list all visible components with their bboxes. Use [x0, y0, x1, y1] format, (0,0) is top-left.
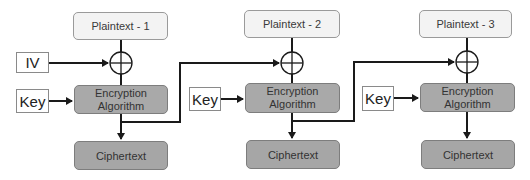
plaintext-2-box: Plaintext - 2 [244, 10, 340, 38]
encryption-algorithm-2-box: Encryption Algorithm [245, 83, 340, 113]
key-3-box: Key [362, 86, 394, 111]
ciphertext-3-box: Ciphertext [421, 140, 515, 169]
ciphertext-1-box: Ciphertext [74, 141, 168, 170]
plaintext-1-box: Plaintext - 1 [73, 12, 168, 40]
xor-icon-3 [456, 51, 478, 73]
key-1-box: Key [16, 89, 49, 113]
cbc-diagram: IV Plaintext - 1 Key Encryption Algorith… [0, 0, 530, 180]
ciphertext-2-box: Ciphertext [246, 140, 340, 169]
xor-icon-2 [281, 52, 303, 74]
plaintext-3-box: Plaintext - 3 [419, 10, 512, 38]
encryption-algorithm-1-box: Encryption Algorithm [74, 85, 168, 114]
encryption-algorithm-3-box: Encryption Algorithm [420, 83, 515, 112]
iv-box: IV [16, 52, 49, 73]
key-2-box: Key [189, 87, 221, 111]
xor-icon-1 [110, 52, 132, 74]
